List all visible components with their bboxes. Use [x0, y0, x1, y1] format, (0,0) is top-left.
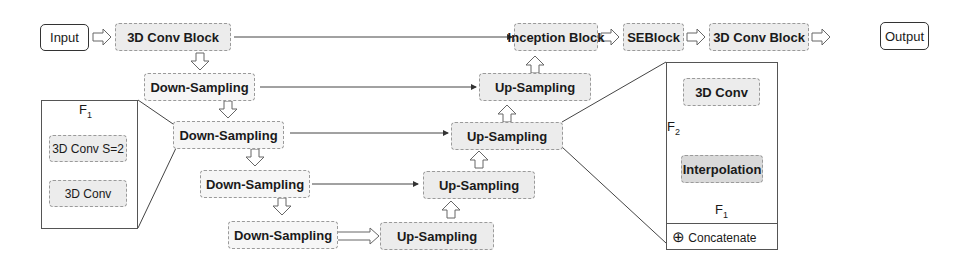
- up-sampling-1: Up-Sampling: [479, 73, 591, 101]
- up-sampling-4: Up-Sampling: [380, 222, 494, 250]
- output-node: Output: [880, 22, 929, 50]
- up-sampling-1-label: Up-Sampling: [495, 80, 575, 95]
- up-sampling-2-label: Up-Sampling: [467, 129, 547, 144]
- legend-divider: [666, 223, 778, 224]
- conv-block-1-label: 3D Conv Block: [127, 30, 219, 45]
- up-conv-layer: 3D Conv: [683, 78, 760, 106]
- interpolation-layer: Interpolation: [681, 155, 763, 183]
- inception-block-label: Inception Block: [508, 30, 605, 45]
- input-label: Input: [50, 30, 79, 45]
- down-sampling-4: Down-Sampling: [228, 221, 338, 249]
- input-node: Input: [40, 24, 89, 51]
- up-sampling-4-label: Up-Sampling: [397, 229, 477, 244]
- conv-block-1: 3D Conv Block: [115, 23, 231, 51]
- conv-stride2-layer: 3D Conv S=2: [49, 135, 127, 162]
- down-sampling-1-label: Down-Sampling: [150, 80, 248, 95]
- conv-block-2: 3D Conv Block: [709, 23, 809, 51]
- concat-symbol-icon: ⊕: [672, 228, 685, 245]
- interpolation-label: Interpolation: [683, 162, 762, 177]
- seblock-label: SEBlock: [627, 30, 680, 45]
- up-sampling-2: Up-Sampling: [451, 122, 563, 150]
- output-label: Output: [885, 29, 924, 44]
- seblock: SEBlock: [623, 23, 684, 51]
- down-sampling-2-label: Down-Sampling: [179, 128, 277, 143]
- conv-layer: 3D Conv: [49, 180, 127, 207]
- up-input-label: F1: [715, 202, 728, 220]
- down-detail-input-label: F1: [79, 102, 92, 120]
- down-sampling-4-label: Down-Sampling: [234, 228, 332, 243]
- up-sampling-3: Up-Sampling: [423, 171, 535, 199]
- up-sampling-3-label: Up-Sampling: [439, 178, 519, 193]
- down-sampling-2: Down-Sampling: [173, 121, 284, 149]
- inception-block: Inception Block: [514, 23, 598, 51]
- conv-block-2-label: 3D Conv Block: [713, 30, 805, 45]
- up-conv-label: 3D Conv: [695, 85, 748, 100]
- skip-input-label: F2: [667, 119, 680, 137]
- down-sampling-1: Down-Sampling: [144, 73, 255, 101]
- conv-layer-label: 3D Conv: [65, 187, 112, 201]
- legend-concatenate: ⊕ Concatenate: [672, 228, 756, 246]
- down-sampling-3: Down-Sampling: [200, 170, 310, 198]
- down-sampling-3-label: Down-Sampling: [206, 177, 304, 192]
- conv-stride2-label: 3D Conv S=2: [52, 142, 124, 156]
